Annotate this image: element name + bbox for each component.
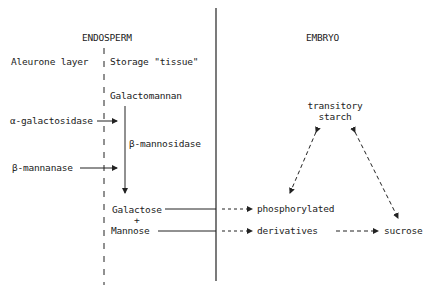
galactomannan-label: Galactomannan [110, 90, 182, 101]
starch-phosphorylated-arrow [290, 132, 316, 193]
mannose-label: Mannose [111, 225, 150, 236]
sucrose-label: sucrose [384, 225, 423, 236]
endosperm-header: ENDOSPERM [82, 32, 132, 43]
diagram-lines [0, 0, 434, 289]
beta-mannanase-label: β-mannanase [12, 162, 73, 173]
alpha-galactosidase-label: α-galactosidase [10, 115, 93, 126]
embryo-header: EMBRYO [306, 32, 339, 43]
plus-sign: + [134, 214, 140, 225]
starch-sucrose-arrow [355, 132, 398, 218]
transitory-starch-label: transitory starch [302, 100, 368, 122]
aleurone-label: Aleurone layer [11, 56, 88, 67]
derivatives-label: derivatives [257, 225, 318, 236]
phosphorylated-label: phosphorylated [257, 203, 334, 214]
storage-label: Storage "tissue" [110, 56, 198, 67]
beta-mannosidase-label: β-mannosidase [129, 138, 201, 149]
